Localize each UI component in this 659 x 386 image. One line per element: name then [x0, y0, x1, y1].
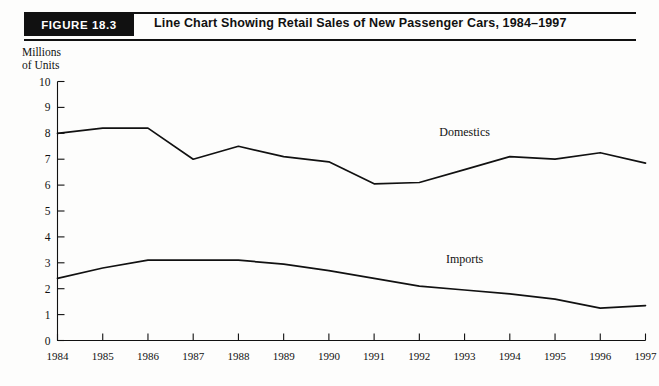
y-tick-label: 2 [45, 283, 51, 295]
y-tick-label: 0 [45, 335, 51, 347]
y-tick-label: 9 [45, 101, 51, 113]
x-tick-label: 1985 [92, 350, 115, 362]
x-tick-label: 1984 [47, 350, 70, 362]
y-tick-label: 8 [45, 127, 51, 139]
chart-axes [58, 82, 646, 341]
series-label-domestics: Domestics [439, 125, 490, 139]
x-axis-ticks: 1984198519861987198819891990199119921993… [47, 334, 658, 362]
x-tick-label: 1990 [318, 350, 341, 362]
series-labels: DomesticsImports [439, 125, 490, 266]
x-tick-label: 1995 [544, 350, 567, 362]
series-label-imports: Imports [446, 252, 484, 266]
x-tick-label: 1994 [499, 350, 522, 362]
x-tick-label: 1997 [635, 350, 658, 362]
series-line-domestics [58, 128, 646, 184]
x-tick-label: 1992 [408, 350, 430, 362]
y-tick-label: 7 [45, 153, 51, 165]
x-tick-label: 1986 [137, 350, 160, 362]
y-tick-label: 10 [39, 76, 51, 88]
chart-series [58, 128, 646, 308]
line-chart: 109876543210 198419851986198719881989199… [0, 0, 659, 386]
y-tick-label: 5 [45, 205, 51, 217]
y-tick-label: 1 [45, 309, 51, 321]
y-tick-label: 4 [45, 231, 51, 243]
chart-svg: 109876543210 198419851986198719881989199… [0, 0, 659, 386]
y-tick-label: 6 [45, 179, 51, 191]
y-tick-label: 3 [45, 257, 51, 269]
x-tick-label: 1996 [589, 350, 612, 362]
x-tick-label: 1993 [454, 350, 477, 362]
series-line-imports [58, 260, 646, 308]
figure-page: FIGURE 18.3 Line Chart Showing Retail Sa… [0, 0, 659, 386]
x-tick-label: 1989 [273, 350, 296, 362]
x-tick-label: 1987 [182, 350, 205, 362]
x-tick-label: 1991 [363, 350, 385, 362]
x-tick-label: 1988 [227, 350, 250, 362]
y-axis-ticks: 109876543210 [39, 76, 65, 347]
